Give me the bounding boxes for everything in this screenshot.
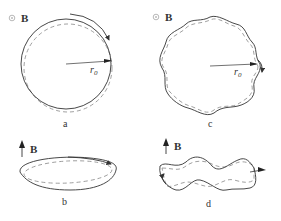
diagram-canvas: B r0 a B r0 c B [0, 0, 281, 221]
radius-arrowhead-icon [250, 62, 258, 66]
field-label: B [30, 143, 38, 155]
panel-caption: d [206, 198, 211, 209]
field-out-of-page-icon [153, 14, 159, 20]
direction-arrow-icon [70, 14, 109, 40]
panel-c: B r0 c [153, 11, 262, 129]
radius-label: r0 [234, 66, 242, 79]
radius-line [210, 64, 256, 66]
reference-wavy-circle [162, 19, 258, 112]
panel-a: B r0 a [9, 12, 112, 129]
panel-caption: a [63, 118, 68, 129]
field-up-arrow-icon [163, 138, 169, 154]
panel-caption: c [208, 118, 213, 129]
field-label: B [21, 12, 29, 24]
field-out-of-page-icon [9, 15, 15, 21]
reference-ellipse [23, 159, 112, 186]
panel-caption: b [62, 196, 67, 207]
field-up-arrow-icon [19, 140, 25, 157]
orbit-ellipse [20, 157, 116, 190]
panel-b: B b [19, 140, 116, 207]
direction-arrow-icon [258, 167, 266, 172]
field-label: B [165, 11, 173, 23]
field-label: B [174, 140, 182, 152]
radius-line [66, 61, 110, 64]
panel-d: B d [160, 138, 266, 209]
radius-label: r0 [90, 64, 98, 77]
